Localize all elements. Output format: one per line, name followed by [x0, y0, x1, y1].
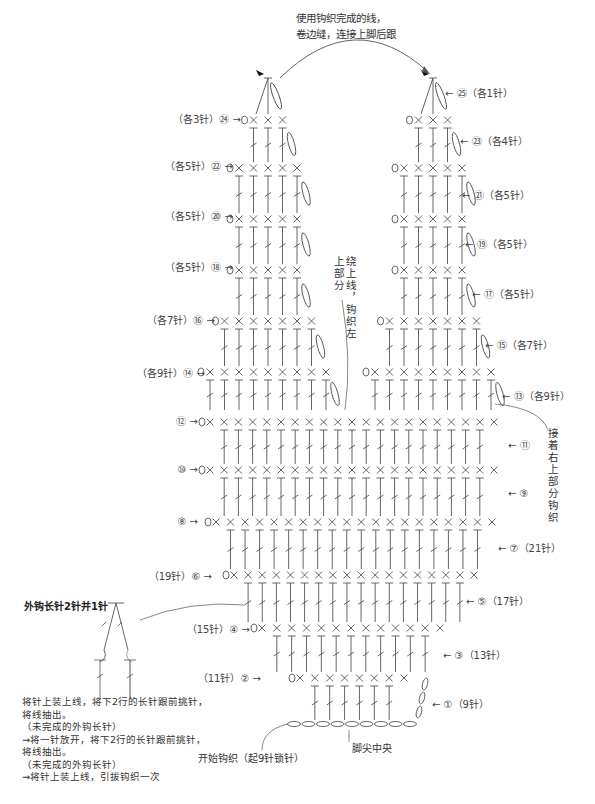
- legend-line: →将一针放开，将下2行的长针跟前挑针，: [22, 734, 208, 747]
- row-label-9: ← ⑨: [508, 488, 529, 500]
- row-label-14: （各9针）⑭ →: [137, 368, 205, 380]
- row-label-13: ← ⑬（各9针）: [502, 391, 570, 403]
- row-label-3: ← ③（13针）: [443, 650, 506, 662]
- row-label-20: （各5针）⑳ →: [165, 211, 233, 223]
- row-label-22: （各5针）㉒ →: [165, 161, 233, 173]
- row-label-10: ⑩ →: [177, 464, 198, 476]
- right-part-note: 接着右上部分钩织: [546, 428, 558, 528]
- row-label-19: ← ⑲（各5针）: [465, 239, 533, 251]
- row-label-1: ← ①（9针）: [432, 699, 489, 711]
- left-upper-note: 绕上线，钩织左上部分: [332, 256, 356, 346]
- start-note: 开始钩织（起9针锁针）: [198, 750, 304, 765]
- row-label-15: ← ⑮（各7针）: [485, 340, 553, 352]
- legend-line: 将线抽出。: [22, 709, 208, 722]
- row-label-17: ← ⑰（各5针）: [472, 289, 540, 301]
- row-label-5: ← ⑤（17针）: [466, 596, 529, 608]
- legend-line: →将针上装上线，引拔钩织一次: [22, 771, 208, 784]
- toe-center-note: 脚尖中央: [352, 740, 392, 755]
- top-note: 使用钩织完成的线， 卷边缝，连接上脚后跟: [296, 10, 396, 42]
- row-label-16: （各7针）⑯ →: [147, 315, 215, 327]
- row-label-6: （19针）⑥ →: [149, 571, 212, 583]
- legend-line: （未完成的外钩长针）: [22, 721, 208, 734]
- top-note-line-1: 使用钩织完成的线，: [296, 10, 396, 26]
- row-label-18: （各5针）⑱ →: [165, 262, 233, 274]
- row-label-8: ⑧ →: [177, 516, 198, 528]
- top-note-line-2: 卷边缝，连接上脚后跟: [296, 26, 396, 42]
- legend-instructions: 将针上装上线，将下2行的长针跟前挑针， 将线抽出。 （未完成的外钩长针） →将一…: [22, 696, 208, 784]
- legend-line: （未完成的外钩长针）: [22, 759, 208, 772]
- row-label-23: ← ㉓（各4针）: [460, 136, 528, 148]
- row-label-24: （各3针）㉔ →: [173, 114, 241, 126]
- row-label-21: ← ㉑（各5针）: [462, 190, 530, 202]
- row-label-4: （15针）④ →: [187, 624, 250, 636]
- legend-title: 外钩长针2针并1针: [24, 598, 108, 613]
- row-label-12: ⑫ →: [176, 416, 198, 428]
- legend-line: 将针上装上线，将下2行的长针跟前挑针，: [22, 696, 208, 709]
- row-label-11: ← ⑪: [508, 440, 530, 452]
- row-label-7: ← ⑦（21针）: [498, 543, 561, 555]
- row-label-2: （11针）② →: [198, 673, 261, 685]
- legend-line: 将线抽出。: [22, 746, 208, 759]
- row-label-25: ← ㉕（各1针）: [445, 88, 513, 100]
